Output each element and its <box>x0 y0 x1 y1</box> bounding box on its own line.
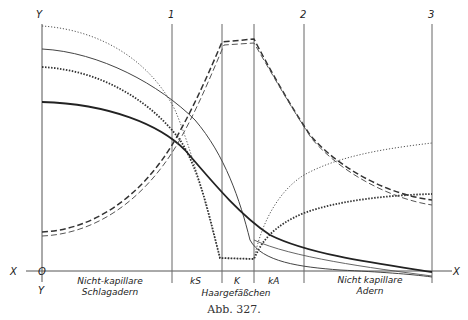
x-axis-left-label: X <box>9 266 18 277</box>
segment-label-ks: kS <box>190 276 201 286</box>
y-axis-top-label: Y <box>36 9 43 20</box>
segment-label-k: K <box>234 276 241 286</box>
curve-thin-solid <box>42 49 432 277</box>
x-axis-right-label: X <box>452 266 461 277</box>
region-label-capillaries: Haargefäßchen <box>202 288 271 298</box>
curve-bold-dotted <box>42 67 432 259</box>
y-axis-bottom-label: Y <box>38 285 45 296</box>
section-marker-3: 3 <box>428 9 434 20</box>
segment-label-ka: kA <box>268 276 279 286</box>
region-label-arteries-2: Schlagadern <box>82 287 139 297</box>
region-label-veins-1: Nicht kapillare <box>338 275 403 285</box>
blood-vessel-diagram: Y Y X X O 1 2 3 kS K kA Nicht-kapillare … <box>0 0 468 320</box>
figure-caption: Abb. 327. <box>206 303 261 316</box>
curve-thick-solid <box>42 102 432 272</box>
section-marker-1: 1 <box>168 9 174 20</box>
region-label-arteries-1: Nicht-kapillare <box>77 276 143 286</box>
section-marker-2: 2 <box>300 9 306 20</box>
region-label-veins-2: Adern <box>356 286 384 296</box>
curve-double-dashed-a <box>42 39 432 232</box>
origin-label: O <box>38 266 46 277</box>
